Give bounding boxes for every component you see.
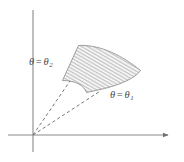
subscript-2: 2 xyxy=(49,61,53,69)
hatched-region-group xyxy=(63,45,141,92)
polar-sector-figure: θ=θ2 θ=θ1 xyxy=(0,0,184,162)
ray-theta-1 xyxy=(33,91,101,136)
hatched-sector-hatching xyxy=(63,45,141,92)
label-theta-1: θ=θ1 xyxy=(110,90,134,101)
subscript-1: 1 xyxy=(130,94,134,102)
ray-theta-2 xyxy=(33,81,70,135)
figure-canvas xyxy=(0,0,184,162)
label-theta-2: θ=θ2 xyxy=(29,57,53,68)
